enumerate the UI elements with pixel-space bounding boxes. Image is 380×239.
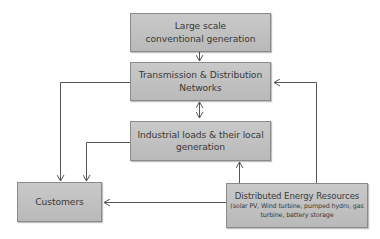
node-conventional-generation: Large scale conventional generation bbox=[130, 13, 271, 52]
edge-transmission-to-customers bbox=[61, 72, 131, 82]
node-transmission-distribution: Transmission & Distribution Networks bbox=[130, 62, 271, 101]
node-label: Customers bbox=[35, 196, 84, 209]
node-label: Distributed Energy Resources bbox=[235, 191, 359, 202]
edge-der-to-transmission bbox=[274, 83, 317, 184]
node-label: Industrial loads & their local generatio… bbox=[135, 129, 267, 154]
node-label: Large scale conventional generation bbox=[146, 20, 256, 45]
node-distributed-energy-resources: Distributed Energy Resources (solar PV, … bbox=[226, 183, 368, 228]
node-customers: Customers bbox=[17, 182, 102, 222]
node-sublabel: (solar PV, Wind turbine, pumped hydro, g… bbox=[229, 202, 365, 219]
node-industrial-loads: Industrial loads & their local generatio… bbox=[130, 121, 271, 161]
edge-industrial-to-customers bbox=[87, 143, 131, 182]
node-label: Transmission & Distribution Networks bbox=[136, 69, 266, 94]
